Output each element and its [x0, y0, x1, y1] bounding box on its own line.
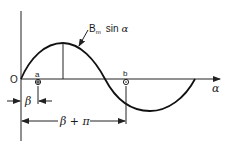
point-b-dot: [125, 81, 127, 83]
sine-diagram: Bmsinα O α a b β β + π: [0, 0, 235, 149]
beta-pi-label: β + π: [59, 115, 91, 128]
point-b-label: b: [123, 69, 128, 78]
curve-label-leader: [79, 30, 88, 46]
curve-label: Bmsinα: [89, 23, 128, 35]
axis-label-alpha: α: [212, 82, 220, 95]
beta-label: β: [24, 95, 31, 108]
point-a-label: a: [35, 70, 40, 79]
origin-label: O: [10, 74, 18, 85]
